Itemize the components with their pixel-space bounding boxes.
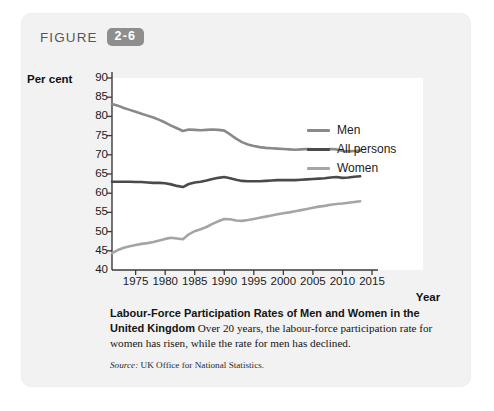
chart-region: Per cent 4045505560657075808590 19751980… [22,62,470,297]
figure-panel: FIGURE 2-6 Per cent 40455055606570758085… [22,14,470,386]
chart-legend: MenAll personsWomen [307,124,396,174]
caption-block: Labour-Force Participation Rates of Men … [110,306,440,371]
source-text: UK Office for National Statistics. [138,360,264,370]
x-axis-tick-labels: 197519801985199019952000200520102015 [22,62,470,297]
x-axis-title: Year [408,291,448,303]
caption-source: Source: UK Office for National Statistic… [110,359,440,371]
figure-label: FIGURE [40,30,98,45]
source-label: Source: [110,360,138,370]
legend-swatch-icon [307,167,330,170]
legend-swatch-icon [307,129,330,132]
caption-text: Labour-Force Participation Rates of Men … [110,306,440,352]
figure-number-badge: 2-6 [107,28,145,46]
legend-label: All persons [337,143,396,155]
x-tick-label: 2015 [352,276,392,288]
figure-header: FIGURE 2-6 [40,28,144,46]
legend-swatch-icon [307,148,330,151]
legend-label: Men [337,124,360,136]
legend-item-all-persons: All persons [307,143,396,155]
legend-item-men: Men [307,124,396,136]
legend-item-women: Women [307,162,396,174]
legend-label: Women [337,162,378,174]
